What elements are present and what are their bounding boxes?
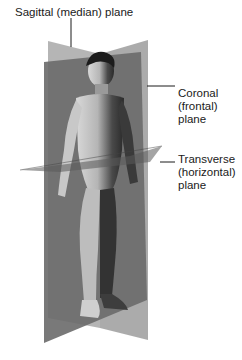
transverse-plane-label: Transverse (horizontal) plane [178,153,236,192]
sagittal-plane-label: Sagittal (median) plane [15,6,133,19]
coronal-plane-label: Coronal (frontal) plane [178,87,218,126]
transverse-label-line-1: Transverse [178,153,236,166]
sagittal-label-text: Sagittal (median) plane [15,6,133,18]
transverse-label-line-3: plane [178,179,236,192]
coronal-label-line-2: (frontal) [178,100,218,113]
coronal-label-line-1: Coronal [178,87,218,100]
anatomical-planes-figure: Sagittal (median) plane Coronal (frontal… [0,0,242,360]
transverse-label-line-2: (horizontal) [178,166,236,179]
coronal-label-line-3: plane [178,113,218,126]
